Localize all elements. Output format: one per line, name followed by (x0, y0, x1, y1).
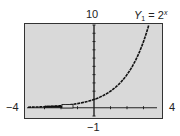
function-equals: = 2 (145, 9, 164, 21)
function-label: Y1 = 2x (134, 7, 167, 24)
function-curve (28, 25, 149, 107)
ymin-label: −1 (87, 122, 100, 133)
axes (27, 25, 157, 116)
xmin-label: −4 (6, 102, 19, 113)
trace-cursor-box (62, 105, 73, 109)
function-exponent: x (164, 9, 168, 16)
xmax-label: 4 (169, 102, 175, 113)
ymax-label: 10 (86, 9, 98, 20)
